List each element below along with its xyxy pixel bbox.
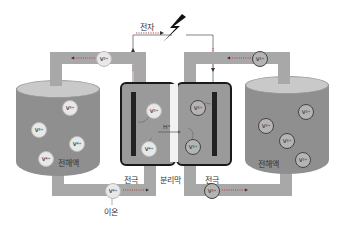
ion-right-tank-1: V²⁺ <box>298 104 314 120</box>
ion-top-left-pipe: V⁵⁺ <box>96 51 112 67</box>
ion-left-tank-4: V⁴⁺ <box>38 151 54 167</box>
ion-left-tank-3: V⁴⁺ <box>69 136 85 152</box>
right-electrolyte-label: 전해액 <box>258 158 279 169</box>
left-electrode-label: 전극 <box>124 174 138 185</box>
proton-label: H⁺ <box>163 123 171 130</box>
ion-cell-left-2: V⁴⁺ <box>141 141 157 157</box>
ion-cell-right-1: V²⁺ <box>190 100 206 116</box>
ion-bottom-left-pipe: V⁴⁺ <box>105 183 121 199</box>
ion-left-tank-2: V⁵⁺ <box>31 122 47 138</box>
cell-arrows <box>0 0 343 231</box>
right-electrode-label: 전극 <box>205 174 219 185</box>
left-electrolyte-label: 전해액 <box>58 157 79 168</box>
ion-top-right-pipe: V²⁺ <box>252 51 268 67</box>
ion-right-tank-3: V²⁺ <box>279 133 295 149</box>
electron-label: 전자 <box>140 21 154 32</box>
separator-label: 분리막 <box>160 174 181 185</box>
ion-left-tank-1: V⁵⁺ <box>62 100 78 116</box>
ion-cell-right-2: V³⁺ <box>185 139 201 155</box>
ion-bottom-right-pipe: V³⁺ <box>204 183 220 199</box>
ion-cell-left-1: V⁵⁺ <box>146 103 162 119</box>
ion-right-tank-4: V³⁺ <box>295 152 311 168</box>
ion-label: 이온 <box>104 206 118 217</box>
ion-right-tank-2: V³⁺ <box>258 118 274 134</box>
